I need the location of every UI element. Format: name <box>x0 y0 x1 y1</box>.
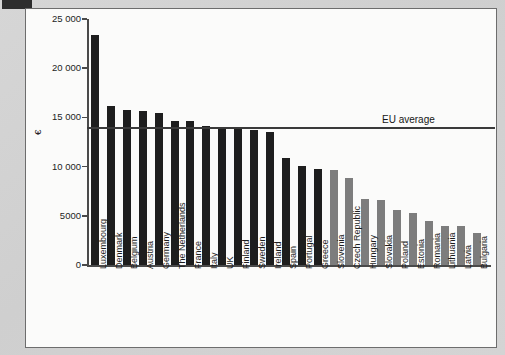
bar <box>202 126 210 265</box>
x-axis-label: Finland <box>242 239 251 269</box>
x-axis-label: Hungary <box>369 235 378 269</box>
x-axis-label: Poland <box>401 241 410 269</box>
x-axis-label: Denmark <box>115 232 124 269</box>
x-axis-label: Greece <box>321 239 330 269</box>
x-axis-label: Austria <box>146 241 155 269</box>
eu-average-line <box>87 127 495 129</box>
y-axis-title: € <box>32 130 43 135</box>
eu-average-label: EU average <box>382 114 435 125</box>
x-axis-label: Germany <box>162 232 171 269</box>
x-axis-label: Ireland <box>274 241 283 269</box>
y-axis-tick <box>82 67 87 69</box>
y-axis-tick-label: 5000 <box>60 211 81 221</box>
y-axis-tick-labels: 25 00020 00015 00010 00050000 <box>26 17 81 267</box>
x-axis-label: Spain <box>289 246 298 269</box>
y-axis-tick <box>82 117 87 119</box>
x-axis-label: Estonia <box>417 239 426 269</box>
y-axis-tick <box>82 166 87 168</box>
chart-panel: 25 00020 00015 00010 00050000 € EU avera… <box>25 8 497 348</box>
x-axis-label: Czech Republic <box>353 206 362 269</box>
y-axis-tick <box>82 264 87 266</box>
y-axis-tick-label: 10 000 <box>52 162 81 172</box>
y-axis-tick-label: 20 000 <box>52 63 81 73</box>
y-axis-tick-label: 0 <box>76 260 81 270</box>
x-axis-label: Latvia <box>464 245 473 269</box>
y-axis-line <box>87 19 89 265</box>
y-axis-tick-label: 15 000 <box>52 112 81 122</box>
bar <box>218 128 226 265</box>
x-axis-label: France <box>194 241 203 269</box>
y-axis-tick <box>82 215 87 217</box>
x-axis-label: Romania <box>433 233 442 269</box>
y-axis-tick-label: 25 000 <box>52 14 81 24</box>
x-axis-label: The Netherlands <box>178 202 187 269</box>
x-axis-label: Sweden <box>258 236 267 269</box>
y-axis-tick <box>82 18 87 20</box>
x-axis-label: Slovakia <box>385 235 394 269</box>
x-axis-label: Italy <box>210 252 219 269</box>
x-axis-label: Bulgaria <box>480 236 489 269</box>
x-axis-label: Slovenia <box>337 234 346 269</box>
plot-area: EU average <box>87 19 491 265</box>
x-axis-label: Belgium <box>130 236 139 269</box>
x-axis-label: Luxembourg <box>99 219 108 269</box>
x-axis-label: UK <box>226 256 235 269</box>
x-axis-label: Portugal <box>305 235 314 269</box>
x-axis-label: Lithuania <box>448 232 457 269</box>
